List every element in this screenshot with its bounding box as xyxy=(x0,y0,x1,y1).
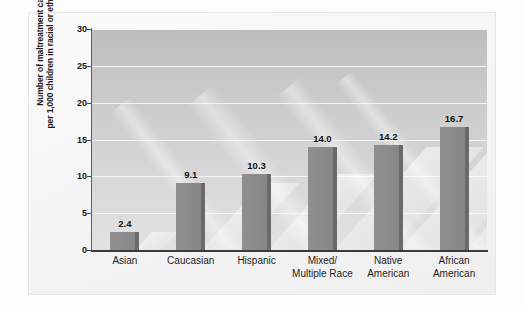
y-axis-tick-label: 30 xyxy=(67,25,87,34)
bar-front-face xyxy=(308,147,333,250)
bar-value-label: 2.4 xyxy=(102,219,147,229)
bar[interactable]: 16.7 xyxy=(440,127,469,250)
x-axis-tick-label-line-1: Native xyxy=(374,255,402,266)
y-axis-tick-label: 20 xyxy=(67,99,87,108)
x-axis-tick-label: AfricanAmerican xyxy=(412,255,496,280)
bar-side-face xyxy=(201,183,205,250)
bar[interactable]: 14.0 xyxy=(308,147,337,250)
bar-front-face xyxy=(110,232,135,250)
y-axis-tick-label: 25 xyxy=(67,62,87,71)
bar-side-face xyxy=(465,127,469,250)
bar-side-face xyxy=(399,145,403,250)
gridline xyxy=(92,213,487,214)
plot-area: 2.49.110.314.014.216.7 xyxy=(92,29,487,250)
gridline xyxy=(92,29,487,30)
x-axis-tick-labels: AsianCaucasianHispanicMixed/Multiple Rac… xyxy=(92,255,487,297)
bar-value-label: 14.2 xyxy=(366,132,411,142)
y-axis-tick-labels: 051015202530 xyxy=(64,29,87,250)
bar-chart-figure: Number of maltreatment cases per 1,000 c… xyxy=(0,0,524,309)
y-axis-tick-mark xyxy=(87,66,91,67)
bar-front-face xyxy=(440,127,465,250)
y-axis-tick-mark xyxy=(87,250,91,251)
x-axis-tick-label-line-1: Asian xyxy=(112,255,137,266)
y-axis-tick-mark xyxy=(87,103,91,104)
gridline xyxy=(92,140,487,141)
y-axis-tick-mark xyxy=(87,176,91,177)
bar-side-face xyxy=(333,147,337,250)
x-axis-tick-label-line-1: Caucasian xyxy=(167,255,214,266)
gridline xyxy=(92,103,487,104)
y-axis-tick-mark xyxy=(87,213,91,214)
y-axis-tick-mark xyxy=(87,140,91,141)
y-axis-tick-mark xyxy=(87,29,91,30)
gridline xyxy=(92,66,487,67)
bar-side-face xyxy=(135,232,139,250)
x-axis-line xyxy=(91,250,488,252)
bar-front-face xyxy=(176,183,201,250)
bar[interactable]: 14.2 xyxy=(374,145,403,250)
gridline xyxy=(92,176,487,177)
y-axis-tick-label: 10 xyxy=(67,172,87,181)
bar-shadow xyxy=(466,127,487,250)
y-axis-tick-label: 0 xyxy=(67,246,87,255)
bar-shadow xyxy=(136,232,178,250)
x-axis-tick-label-line-1: African xyxy=(439,255,470,266)
bar-value-label: 14.0 xyxy=(300,134,345,144)
y-axis-tick-label: 15 xyxy=(67,136,87,145)
bar-front-face xyxy=(374,145,399,250)
bar-value-label: 16.7 xyxy=(432,114,477,124)
bar[interactable]: 9.1 xyxy=(176,183,205,250)
y-axis-tick-label: 5 xyxy=(67,209,87,218)
x-axis-tick-label-line-1: Hispanic xyxy=(237,255,275,266)
bar-value-label: 9.1 xyxy=(168,170,213,180)
bar[interactable]: 2.4 xyxy=(110,232,139,250)
x-axis-tick-label-line-1: Mixed/ xyxy=(308,255,337,266)
bar-side-face xyxy=(267,174,271,250)
x-axis-tick-label-line-2: American xyxy=(412,268,496,281)
bar-front-face xyxy=(242,174,267,250)
bar[interactable]: 10.3 xyxy=(242,174,271,250)
bar-value-label: 10.3 xyxy=(234,161,279,171)
